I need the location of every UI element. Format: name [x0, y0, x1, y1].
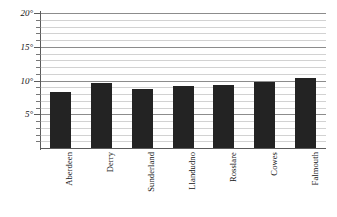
y-tick-major — [34, 47, 41, 48]
x-tick-label: Falmouth — [310, 152, 320, 185]
y-tick-minor — [36, 20, 41, 21]
x-tick-label: Rosslare — [228, 152, 238, 182]
gridline-major — [40, 13, 326, 14]
y-tick-minor — [36, 87, 41, 88]
y-tick-minor — [36, 94, 41, 95]
gridline-minor — [40, 54, 326, 55]
gridline-major — [40, 47, 326, 48]
gridline-minor — [40, 27, 326, 28]
bar — [295, 78, 316, 148]
y-tick-minor — [36, 40, 41, 41]
y-tick-minor — [36, 60, 41, 61]
y-tick-label: 5° — [0, 109, 33, 119]
y-tick-major — [34, 13, 41, 14]
bar — [91, 83, 112, 148]
y-tick-minor — [36, 135, 41, 136]
y-tick-minor — [36, 67, 41, 68]
y-tick-label: 20° — [0, 8, 33, 18]
y-tick-label: 15° — [0, 42, 33, 52]
y-tick-minor — [36, 33, 41, 34]
y-tick-label: 10° — [0, 76, 33, 86]
bar — [173, 86, 194, 148]
gridline-minor — [40, 20, 326, 21]
y-tick-minor — [36, 74, 41, 75]
y-tick-minor — [36, 121, 41, 122]
y-tick-major — [34, 114, 41, 115]
gridline-minor — [40, 40, 326, 41]
y-tick-major — [34, 81, 41, 82]
bar — [254, 82, 275, 148]
x-tick-label: Sunderland — [146, 152, 156, 192]
bar — [132, 89, 153, 148]
x-tick-label: Llandudno — [187, 152, 197, 190]
x-axis-line — [40, 148, 326, 149]
gridline-minor — [40, 60, 326, 61]
x-tick-label: Derry — [105, 152, 115, 172]
y-tick-minor — [36, 54, 41, 55]
gridline-major — [40, 81, 326, 82]
y-tick-minor — [36, 27, 41, 28]
bar — [213, 85, 234, 148]
gridline-minor — [40, 74, 326, 75]
gridline-minor — [40, 33, 326, 34]
y-tick-minor — [36, 128, 41, 129]
x-tick-label: Aberdeen — [64, 152, 74, 186]
gridline-minor — [40, 67, 326, 68]
y-tick-minor — [36, 141, 41, 142]
y-tick-minor — [36, 101, 41, 102]
bar-chart-figure: 5°10°15°20° AberdeenDerrySunderlandLland… — [0, 0, 337, 217]
bar — [50, 92, 71, 148]
x-tick-label: Cowes — [269, 152, 279, 176]
y-tick-minor — [36, 108, 41, 109]
